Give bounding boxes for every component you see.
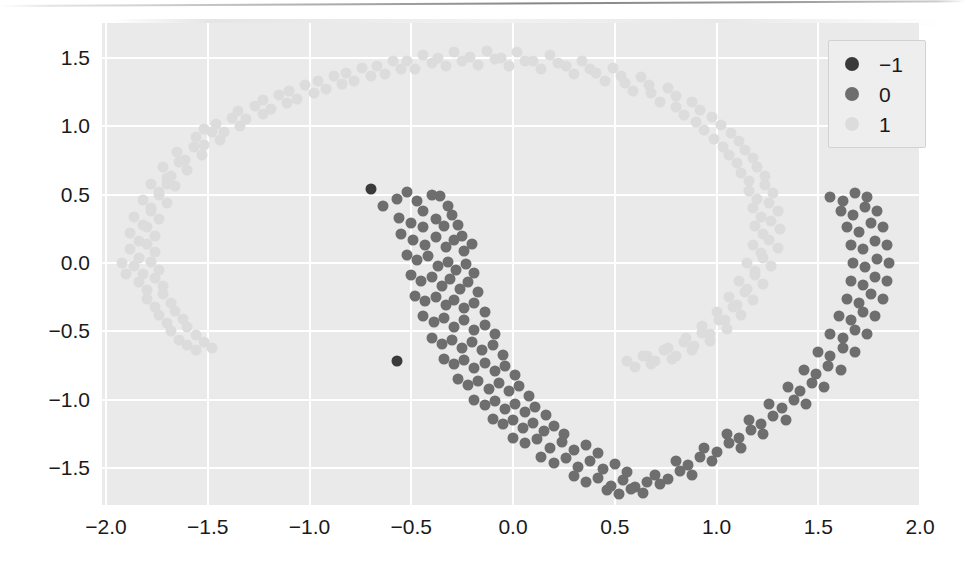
scatter-plot-figure: −2.0−1.5−1.0−0.50.00.51.01.52.0 1.51.00.… bbox=[0, 0, 966, 572]
data-point-class-1 bbox=[198, 124, 209, 135]
data-point-class-0 bbox=[601, 484, 612, 495]
data-point-class-1 bbox=[180, 155, 191, 166]
data-point-class-0 bbox=[434, 191, 445, 202]
data-point-class-1 bbox=[654, 96, 665, 107]
legend-label: 0 bbox=[879, 84, 891, 105]
data-point-class-1 bbox=[410, 63, 421, 74]
data-point-class-0 bbox=[776, 402, 787, 413]
gridline-vertical-5 bbox=[614, 23, 616, 505]
y-tick-label-3: 0.0 bbox=[61, 251, 90, 275]
data-point-class-0 bbox=[872, 206, 883, 217]
legend-entry-0[interactable]: 0 bbox=[839, 79, 915, 109]
data-point-class-1 bbox=[630, 361, 641, 372]
data-point-class-0 bbox=[448, 322, 459, 333]
data-point-class-0 bbox=[794, 386, 805, 397]
legend: −101 bbox=[828, 40, 926, 148]
data-point-class-0 bbox=[845, 315, 856, 326]
data-point-class-0 bbox=[508, 432, 519, 443]
data-point-class-1 bbox=[145, 203, 156, 214]
data-point-class-0 bbox=[402, 186, 413, 197]
data-point-class-1 bbox=[715, 119, 726, 130]
data-point-class-0 bbox=[711, 446, 722, 457]
data-point-class-0 bbox=[467, 337, 478, 348]
x-tick-label-5: 0.5 bbox=[600, 515, 629, 539]
data-point-class-1 bbox=[705, 335, 716, 346]
data-point-class-1 bbox=[758, 278, 769, 289]
data-point-class--1 bbox=[392, 356, 403, 367]
x-tick-label-6: 1.0 bbox=[702, 515, 731, 539]
data-point-class-0 bbox=[723, 438, 734, 449]
data-point-class-1 bbox=[721, 323, 732, 334]
data-point-class-0 bbox=[813, 346, 824, 357]
y-tick-label-1: 1.0 bbox=[61, 114, 90, 138]
data-point-class-0 bbox=[626, 483, 637, 494]
gridline-horizontal-2 bbox=[102, 194, 920, 196]
data-point-class-0 bbox=[764, 398, 775, 409]
data-point-class-0 bbox=[459, 355, 470, 366]
x-tick-label-0: −2.0 bbox=[85, 515, 126, 539]
data-point-class-0 bbox=[799, 364, 810, 375]
data-point-class-0 bbox=[650, 469, 661, 480]
data-point-class-0 bbox=[825, 192, 836, 203]
data-point-class-1 bbox=[219, 126, 230, 137]
data-point-class-0 bbox=[469, 324, 480, 335]
data-point-class-0 bbox=[438, 312, 449, 323]
data-point-class-0 bbox=[870, 271, 881, 282]
data-point-class-1 bbox=[666, 353, 677, 364]
data-point-class-0 bbox=[448, 294, 459, 305]
data-point-class-0 bbox=[845, 240, 856, 251]
data-point-class-0 bbox=[858, 244, 869, 255]
data-point-class-0 bbox=[463, 277, 474, 288]
data-point-class-0 bbox=[847, 210, 858, 221]
legend-swatch-icon bbox=[845, 57, 859, 71]
data-point-class-0 bbox=[746, 424, 757, 435]
data-point-class-0 bbox=[825, 329, 836, 340]
data-point-class-0 bbox=[811, 368, 822, 379]
data-point-class-0 bbox=[609, 458, 620, 469]
data-point-class-0 bbox=[548, 457, 559, 468]
scan-edge-streak bbox=[0, 0, 966, 7]
data-point-class-0 bbox=[487, 340, 498, 351]
data-point-class-0 bbox=[670, 456, 681, 467]
data-point-class-0 bbox=[735, 442, 746, 453]
data-point-class-0 bbox=[758, 428, 769, 439]
data-point-class-0 bbox=[878, 222, 889, 233]
data-point-class-1 bbox=[137, 219, 148, 230]
data-point-class-0 bbox=[870, 236, 881, 247]
legend-label: 1 bbox=[879, 114, 891, 135]
data-point-class-0 bbox=[469, 363, 480, 374]
data-point-class-0 bbox=[540, 409, 551, 420]
data-point-class-1 bbox=[599, 76, 610, 87]
legend-entry-1[interactable]: 1 bbox=[839, 109, 915, 139]
data-point-class-0 bbox=[406, 218, 417, 229]
data-point-class-1 bbox=[162, 178, 173, 189]
data-point-class-0 bbox=[837, 333, 848, 344]
data-point-class-0 bbox=[878, 293, 889, 304]
data-point-class-1 bbox=[699, 125, 710, 136]
data-point-class-1 bbox=[182, 165, 193, 176]
data-point-class-0 bbox=[548, 420, 559, 431]
y-tick-label-0: 1.5 bbox=[61, 46, 90, 70]
data-point-class-0 bbox=[418, 206, 429, 217]
data-point-class-1 bbox=[678, 110, 689, 121]
data-point-class-1 bbox=[748, 294, 759, 305]
data-point-class-0 bbox=[530, 401, 541, 412]
data-point-class-1 bbox=[473, 59, 484, 70]
data-point-class-0 bbox=[430, 232, 441, 243]
data-point-class-1 bbox=[766, 260, 777, 271]
data-point-class-0 bbox=[489, 396, 500, 407]
data-point-class-0 bbox=[426, 271, 437, 282]
data-point-class-0 bbox=[882, 275, 893, 286]
data-point-class-0 bbox=[862, 329, 873, 340]
data-point-class-1 bbox=[149, 230, 160, 241]
data-point-class-0 bbox=[520, 438, 531, 449]
data-point-class-1 bbox=[121, 268, 132, 279]
data-point-class-0 bbox=[493, 378, 504, 389]
y-tick-label-4: −0.5 bbox=[49, 319, 90, 343]
data-point-class-0 bbox=[699, 442, 710, 453]
data-point-class-1 bbox=[292, 93, 303, 104]
scan-edge-artifact bbox=[0, 0, 966, 11]
legend-entry-neg1[interactable]: −1 bbox=[839, 49, 915, 79]
data-point-class-0 bbox=[479, 307, 490, 318]
data-point-class-0 bbox=[467, 238, 478, 249]
